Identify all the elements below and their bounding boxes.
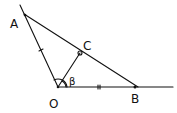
segment-ao bbox=[20, 5, 58, 87]
label-b: B bbox=[131, 92, 139, 106]
label-c: C bbox=[83, 39, 91, 53]
label-o: O bbox=[49, 97, 58, 111]
diagram-svg: A C O B β bbox=[0, 0, 177, 113]
geometry-diagram: A C O B β bbox=[0, 0, 177, 113]
point-a bbox=[24, 14, 27, 17]
point-o bbox=[57, 86, 60, 89]
label-a: A bbox=[10, 17, 19, 31]
label-beta: β bbox=[69, 76, 75, 87]
point-b bbox=[134, 86, 137, 89]
